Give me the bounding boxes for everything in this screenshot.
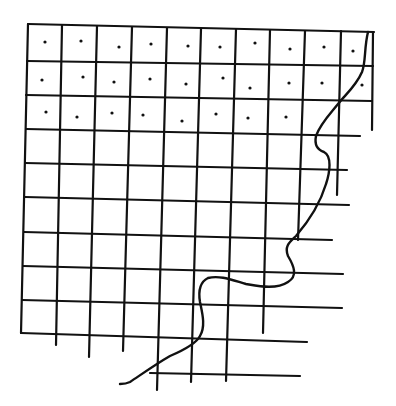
vertical-line-6 <box>226 29 236 381</box>
cell-dot-11 <box>81 75 84 78</box>
cell-dot-15 <box>221 76 224 79</box>
cell-dot-1 <box>79 39 82 42</box>
horizontal-line-9 <box>21 333 307 342</box>
horizontal-line-4 <box>25 163 347 170</box>
vertical-line-5 <box>191 29 201 382</box>
cell-dot-23 <box>141 113 144 116</box>
cell-dot-7 <box>288 47 291 50</box>
cell-dot-4 <box>186 44 189 47</box>
cell-dot-19 <box>360 83 363 86</box>
cell-dot-20 <box>44 110 47 113</box>
cell-dot-27 <box>284 115 287 118</box>
cell-dot-16 <box>248 86 251 89</box>
vertical-line-10 <box>372 32 373 130</box>
cell-dot-8 <box>322 45 325 48</box>
cell-dot-21 <box>75 115 78 118</box>
cell-dots <box>40 39 363 122</box>
cell-dot-10 <box>40 78 43 81</box>
horizontal-line-6 <box>24 232 332 240</box>
horizontal-line-8 <box>22 300 342 308</box>
cell-dot-24 <box>180 119 183 122</box>
wavy-boundary-curve <box>120 32 368 384</box>
cell-dot-17 <box>287 81 290 84</box>
grid-drawing <box>0 0 396 406</box>
drawing-canvas <box>0 0 396 406</box>
horizontal-line-10 <box>150 373 300 376</box>
cell-dot-18 <box>320 81 323 84</box>
vertical-line-4 <box>157 28 167 390</box>
horizontal-line-3 <box>26 129 360 136</box>
cell-dot-5 <box>218 45 221 48</box>
cell-dot-3 <box>149 42 152 45</box>
vertical-line-1 <box>56 25 62 345</box>
cell-dot-25 <box>214 112 217 115</box>
cell-dot-14 <box>184 82 187 85</box>
cell-dot-22 <box>110 111 113 114</box>
cell-dot-9 <box>351 49 354 52</box>
cell-dot-0 <box>43 40 46 43</box>
cell-dot-13 <box>148 77 151 80</box>
vertical-line-0 <box>21 24 28 333</box>
cell-dot-12 <box>112 80 115 83</box>
cell-dot-6 <box>253 41 256 44</box>
cell-dot-2 <box>117 45 120 48</box>
vertical-line-2 <box>89 26 97 357</box>
cell-dot-26 <box>246 116 249 119</box>
